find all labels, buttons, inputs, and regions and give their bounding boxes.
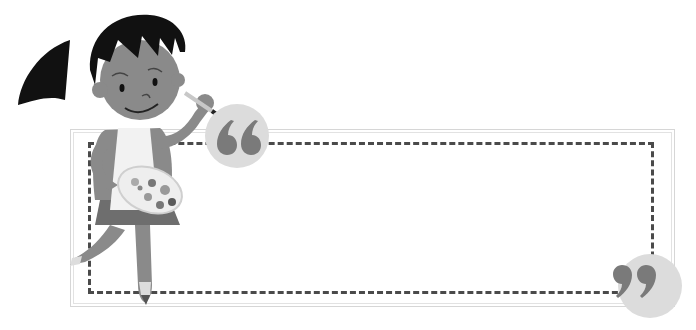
close-quote-badge [618, 254, 682, 318]
close-quote-icon [608, 252, 672, 316]
open-quote-icon [205, 104, 269, 168]
open-quote-badge [205, 104, 269, 168]
